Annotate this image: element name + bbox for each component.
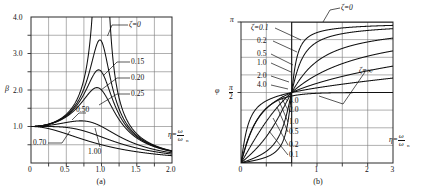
curve-label-b-top-0: ζ=0: [341, 3, 353, 12]
curve-label-a-1: 0.15: [131, 57, 144, 66]
xtick-a-3: 1.5: [131, 165, 140, 174]
xtick-b-2: 2: [365, 165, 369, 174]
curve-label-a-0: ζ=0: [129, 20, 141, 29]
curve-label-b-top-1: ζ=0.1: [251, 23, 268, 32]
xtick-a-2: 1.0: [96, 165, 105, 174]
ytick-b-pi: π: [230, 15, 234, 24]
curve-label-b-top-5: 2.0: [257, 71, 266, 80]
curve-label-b-bot-2: 1.0: [289, 117, 298, 126]
ylabel-a: β: [5, 84, 9, 93]
curve-label-a-3: 0.25: [131, 89, 144, 98]
caption-b: (b): [298, 177, 338, 186]
xtick-a-4: 2.0: [166, 165, 175, 174]
curve-label-a-4: 0.50: [76, 105, 89, 114]
xlabel-b: η=ωω: [389, 133, 405, 148]
xlabel-b-subscript: n: [407, 143, 410, 148]
ytick-a-1: 1.0: [13, 122, 22, 131]
ytick-a-2: 2.0: [13, 86, 22, 95]
panel-a: β η=ωω n 0 0.5 1.0 1.5 2.0 1.0 2.0 3.0 4…: [0, 0, 213, 193]
curve-label-b-top-4: 1.0: [257, 58, 266, 67]
chart-b-svg: [213, 0, 427, 193]
xtick-b-1: 1: [315, 165, 319, 174]
curve-label-b-bot-1: 2.0: [289, 105, 298, 114]
curve-label-b-bot-6: ζ=∞: [359, 66, 372, 75]
ylabel-b: φ: [215, 86, 219, 95]
curve-label-b-bot-3: 0.5: [289, 127, 298, 136]
curve-label-b-top-2: 0.2: [257, 36, 266, 45]
panel-b: φ η=ωω n π π 2 0 1 2 3 ζ=0 ζ=0.1 0.2 0.5…: [213, 0, 426, 193]
curve-label-a-2: 0.20: [131, 73, 144, 82]
curve-label-a-6: 1.00: [88, 147, 101, 156]
xlabel-a-subscript: n: [186, 138, 189, 143]
curve-label-b-bot-5: 0.1: [289, 150, 298, 159]
xtick-b-3: 3: [391, 165, 395, 174]
ytick-a-3: 3.0: [13, 49, 22, 58]
curve-label-b-bot-4: 0.2: [289, 140, 298, 149]
curve-label-a-5: 0.70: [33, 138, 46, 147]
curve-label-b-top-3: 0.5: [257, 49, 266, 58]
curve-label-b-bot-0: 4.0: [289, 96, 298, 105]
xlabel-a: η=ωω: [168, 128, 184, 143]
ytick-b-pi-over-2: π 2: [229, 84, 233, 100]
xtick-b-0: 0: [239, 165, 243, 174]
ytick-a-4: 4.0: [13, 13, 22, 22]
xtick-a-0: 0: [28, 165, 32, 174]
caption-a: (a): [81, 177, 121, 186]
xtick-a-1: 0.5: [60, 165, 69, 174]
curve-label-b-top-6: 4.0: [257, 80, 266, 89]
